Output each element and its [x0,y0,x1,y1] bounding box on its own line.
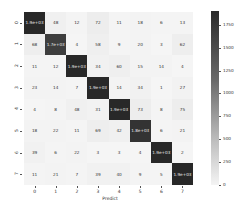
heatmap-cell: 34 [87,55,108,77]
y-tick-mark [20,88,22,89]
heatmap-cell: 69 [87,120,108,142]
heatmap-cell: 15 [130,55,151,77]
y-tick-label: 7 [14,170,19,178]
colorbar-tick-label: 1000 [223,90,234,95]
x-tick-label: 7 [177,189,187,194]
colorbar-tick-mark [219,71,221,72]
heatmap-cell: 22 [45,120,66,142]
x-tick-label: 3 [93,189,103,194]
heatmap-cell: 20 [130,34,151,56]
heatmap-cell: 4 [172,55,193,77]
heatmap-cell: 12 [45,55,66,77]
heatmap-cell: 22 [66,142,87,164]
x-tick-mark [140,186,141,188]
heatmap-cell: 14 [151,55,172,77]
colorbar-tick-label: 500 [223,136,231,141]
heatmap-cell: 4 [66,34,87,56]
heatmap-cell: 7 [66,163,87,185]
y-tick-label: 0 [14,18,19,26]
heatmap-cell: 75 [172,99,193,121]
colorbar-tick-mark [219,48,221,49]
colorbar-tick-mark [219,25,221,26]
colorbar-tick-mark [219,185,221,186]
heatmap-cell: 4 [24,99,45,121]
heatmap-cell: 8 [45,99,66,121]
heatmap-cell: 9 [109,34,130,56]
heatmap-cell: 3 [151,34,172,56]
x-tick-label: 0 [30,189,40,194]
heatmap-cell: 60 [109,55,130,77]
heatmap-cell: 68 [24,34,45,56]
heatmap-cell: 39 [87,163,108,185]
heatmap-cell: 9 [130,163,151,185]
heatmap-cell: 40 [109,163,130,185]
heatmap-cell: 4 [130,142,151,164]
x-tick-mark [77,186,78,188]
x-tick-label: 1 [51,189,61,194]
heatmap-cell: 73 [130,99,151,121]
y-tick-mark [20,109,22,110]
heatmap-cell: 1.9e+03 [24,12,45,34]
heatmap-cell: 62 [172,34,193,56]
heatmap-cell: 58 [87,34,108,56]
heatmap-cell: 1.9e+03 [66,55,87,77]
heatmap-cell: 18 [130,12,151,34]
x-tick-mark [35,186,36,188]
heatmap-cell: 23 [24,77,45,99]
y-tick-label: 4 [14,105,19,113]
x-tick-mark [98,186,99,188]
heatmap-cell: 18 [24,120,45,142]
heatmap-cell: 11 [109,12,130,34]
heatmap-cell: 14 [109,77,130,99]
heatmap-cell: 7 [66,77,87,99]
y-tick-label: 2 [14,62,19,70]
heatmap-cell: 21 [172,120,193,142]
y-tick-label: 5 [14,126,19,134]
x-tick-label: 2 [72,189,82,194]
heatmap-cell: 21 [45,163,66,185]
y-tick-mark [20,44,22,45]
x-tick-label: 4 [114,189,124,194]
y-tick-mark [20,174,22,175]
x-tick-label: 6 [156,189,166,194]
heatmap-cell: 6 [45,142,66,164]
colorbar-tick-label: 1750 [223,22,234,27]
y-tick-mark [20,66,22,67]
heatmap-cell: 1.9e+03 [87,77,108,99]
heatmap-cell: 3 [109,142,130,164]
heatmap-cell: 1.9e+03 [172,163,193,185]
heatmap-cell: 1.9e+03 [151,142,172,164]
colorbar-tick-label: 750 [223,113,231,118]
heatmap-cell: 8 [151,99,172,121]
heatmap-cell: 1.9e+03 [109,99,130,121]
heatmap-cell: 3 [87,142,108,164]
heatmap-cell: 6 [151,12,172,34]
heatmap-cell: 39 [24,142,45,164]
heatmap-cell: 72 [87,12,108,34]
heatmap-cell: 1.7e+03 [45,34,66,56]
heatmap-cell: 11 [66,120,87,142]
colorbar-tick-label: 1500 [223,45,234,50]
heatmap-cell: 48 [45,12,66,34]
colorbar-tick-label: 1250 [223,68,234,73]
colorbar-tick-mark [219,162,221,163]
heatmap-cell: 14 [45,77,66,99]
x-tick-mark [56,186,57,188]
y-tick-label: 6 [14,148,19,156]
heatmap-cell: 42 [109,120,130,142]
heatmap-cell: 2 [172,142,193,164]
heatmap-cell: 6 [151,120,172,142]
heatmap-cell: 1.8e+03 [130,120,151,142]
heatmap-cell: 11 [24,55,45,77]
y-tick-label: 1 [14,40,19,48]
heatmap-grid: 1.9e+034812721118613681.7e+0345892036211… [24,12,193,185]
x-tick-mark [119,186,120,188]
heatmap-cell: 48 [66,99,87,121]
y-tick-mark [20,131,22,132]
colorbar-tick-label: 0 [223,182,226,187]
x-tick-mark [182,186,183,188]
colorbar-tick-mark [219,116,221,117]
heatmap-cell: 12 [66,12,87,34]
heatmap-cell: 31 [87,99,108,121]
colorbar-tick-mark [219,139,221,140]
